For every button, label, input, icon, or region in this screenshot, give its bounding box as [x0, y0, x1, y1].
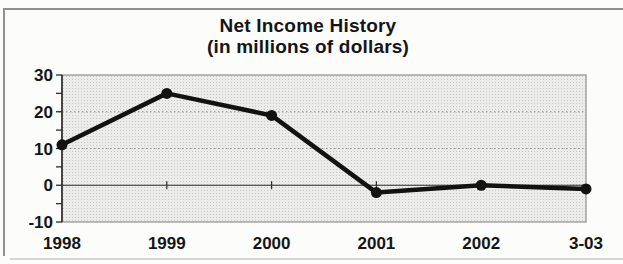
y-axis-label: 0: [44, 176, 53, 195]
x-axis-label: 1999: [148, 234, 186, 253]
data-point: [161, 88, 172, 99]
data-point: [581, 183, 592, 194]
net-income-line-chart: 3020100-10199819992000200120023-03: [0, 0, 623, 264]
y-axis-label: 10: [34, 140, 53, 159]
x-axis-label: 2001: [357, 234, 395, 253]
y-axis-label: -10: [28, 213, 53, 232]
scanned-chart-page: Net Income History (in millions of dolla…: [0, 0, 623, 264]
x-axis-label: 3-03: [569, 234, 603, 253]
data-point: [476, 180, 487, 191]
x-axis-label: 2002: [462, 234, 500, 253]
x-axis-label: 1998: [43, 234, 81, 253]
data-point: [371, 187, 382, 198]
series-line: [62, 93, 586, 192]
data-point: [57, 139, 68, 150]
y-axis-label: 20: [34, 103, 53, 122]
data-point: [266, 110, 277, 121]
x-axis-label: 2000: [253, 234, 291, 253]
y-axis-label: 30: [34, 66, 53, 85]
